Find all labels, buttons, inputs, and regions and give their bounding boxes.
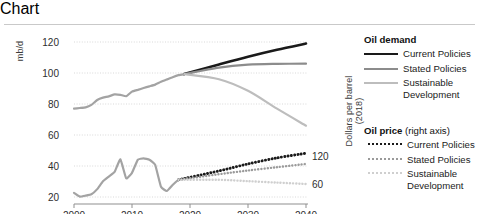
legend-swatch-dotted-dark (364, 139, 402, 145)
legend-label: Stated Policies (407, 154, 470, 166)
legend-swatch-solid-light (364, 77, 398, 84)
legend-label: Stated Policies (403, 63, 466, 75)
chart-figure: mb/d Dollars per barrel (2018) 120 100 8… (0, 18, 479, 214)
legend-item-demand-stated-policies[interactable]: Stated Policies (364, 63, 479, 75)
legend-item-price-sustainable-development[interactable]: Sustainable Development (364, 168, 479, 191)
legend-item-price-current-policies[interactable]: Current Policies (364, 139, 479, 151)
legend-demand-title: Oil demand (364, 34, 479, 45)
legend-item-demand-current-policies[interactable]: Current Policies (364, 48, 479, 60)
legend-oil-demand: Oil demand Current Policies Stated Polic… (364, 34, 479, 100)
legend-price-title: Oil price (right axis) (364, 125, 479, 136)
legend-swatch-solid-mid (364, 63, 398, 70)
legend-swatch-solid-dark (364, 48, 398, 55)
legend-label: Sustainable Development (407, 168, 479, 191)
legend-label: Sustainable Development (403, 77, 479, 100)
legend-label: Current Policies (407, 139, 475, 151)
legend-oil-price: Oil price (right axis) Current Policies … (364, 125, 479, 191)
legend-price-title-main: Oil price (364, 125, 402, 136)
legend-swatch-dotted-mid (364, 154, 402, 160)
legend-swatch-dotted-light (364, 168, 402, 174)
legend-item-demand-sustainable-development[interactable]: Sustainable Development (364, 77, 479, 100)
legend-item-price-stated-policies[interactable]: Stated Policies (364, 154, 479, 166)
legend-price-title-suffix: (right axis) (405, 125, 450, 136)
legend-label: Current Policies (403, 48, 471, 60)
